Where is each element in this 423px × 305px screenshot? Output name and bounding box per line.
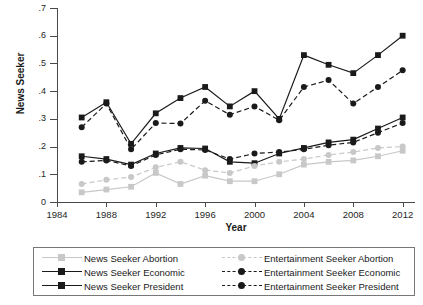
legend-label: News Seeker President xyxy=(84,281,183,292)
data-point xyxy=(202,147,208,153)
data-point xyxy=(178,181,184,187)
series-entertainment-seeker-president xyxy=(79,67,406,152)
series-news-seeker-abortion xyxy=(79,148,406,195)
data-point xyxy=(202,84,208,90)
legend-key-swatch xyxy=(220,265,264,279)
data-point xyxy=(375,126,381,132)
data-point xyxy=(276,149,282,155)
data-point xyxy=(178,145,184,151)
data-point xyxy=(128,163,134,169)
data-point xyxy=(350,139,356,145)
data-point xyxy=(153,151,159,157)
legend-item[interactable]: News Seeker Economic xyxy=(40,265,185,279)
x-tick-label: 2000 xyxy=(232,209,278,220)
data-point xyxy=(202,98,208,104)
y-tick-mark xyxy=(50,91,57,92)
y-tick-mark xyxy=(50,202,57,203)
legend-item[interactable]: News Seeker Abortion xyxy=(40,251,185,265)
data-point xyxy=(178,95,184,101)
data-point xyxy=(400,144,406,150)
data-point xyxy=(276,117,282,123)
data-point xyxy=(375,84,381,90)
data-point xyxy=(79,115,85,121)
y-axis-line xyxy=(57,8,58,202)
y-tick-mark xyxy=(50,36,57,37)
data-point xyxy=(79,124,85,130)
legend-item[interactable]: Entertainment Seeker Economic xyxy=(220,265,400,279)
data-point xyxy=(326,140,332,146)
x-tick-label: 1996 xyxy=(182,209,228,220)
data-point xyxy=(301,162,307,168)
data-point xyxy=(375,153,381,159)
data-point xyxy=(326,77,332,83)
data-point xyxy=(301,145,307,151)
data-point xyxy=(202,146,208,152)
legend-marker-square-icon xyxy=(58,282,65,289)
y-tick-mark xyxy=(50,8,57,9)
data-point xyxy=(79,189,85,195)
data-point xyxy=(153,152,159,158)
legend-item[interactable]: News Seeker President xyxy=(40,279,185,293)
x-tick-mark xyxy=(403,202,404,207)
y-tick-mark xyxy=(50,63,57,64)
data-point xyxy=(301,156,307,162)
data-point xyxy=(103,101,109,107)
data-point xyxy=(103,156,109,162)
data-point xyxy=(276,151,282,157)
data-point xyxy=(400,120,406,126)
data-point xyxy=(177,121,183,127)
legend-marker-circle-icon xyxy=(238,282,245,289)
data-point xyxy=(103,187,109,193)
y-tick-mark xyxy=(50,174,57,175)
y-tick-mark xyxy=(50,119,57,120)
legend-marker-circle-icon xyxy=(238,254,245,261)
data-point xyxy=(252,88,258,94)
data-point xyxy=(252,178,258,184)
data-point xyxy=(227,103,233,109)
data-point xyxy=(350,70,356,76)
y-tick-label: .7 xyxy=(0,4,46,13)
x-tick-mark xyxy=(255,202,256,207)
chart-container: 0.1.2.3.4.5.6.7 198419881992199620002004… xyxy=(0,0,423,305)
y-axis-title: News Seeker xyxy=(15,24,26,144)
legend-label: Entertainment Seeker Abortion xyxy=(264,253,393,264)
data-point xyxy=(375,52,381,58)
data-point xyxy=(79,181,85,187)
data-point xyxy=(202,173,208,179)
x-tick-mark xyxy=(156,202,157,207)
x-tick-label: 2012 xyxy=(380,209,423,220)
data-point xyxy=(375,130,381,136)
x-tick-mark xyxy=(304,202,305,207)
data-point xyxy=(252,151,258,157)
data-point xyxy=(301,146,307,152)
legend-key-swatch xyxy=(220,251,264,265)
legend-column-entertainment-seeker: Entertainment Seeker AbortionEntertainme… xyxy=(220,251,400,293)
legend-key-swatch xyxy=(40,251,84,265)
legend-label: News Seeker Abortion xyxy=(84,253,178,264)
data-point xyxy=(252,160,258,166)
x-tick-label: 1984 xyxy=(34,209,80,220)
x-tick-label: 1988 xyxy=(83,209,129,220)
data-point xyxy=(400,115,406,121)
legend-marker-square-icon xyxy=(58,268,65,275)
data-point xyxy=(227,156,233,162)
data-point xyxy=(326,142,332,148)
data-point xyxy=(400,33,406,39)
data-point xyxy=(350,101,356,107)
data-point xyxy=(177,159,183,165)
data-point xyxy=(153,120,159,126)
legend-item[interactable]: Entertainment Seeker President xyxy=(220,279,400,293)
legend-item[interactable]: Entertainment Seeker Abortion xyxy=(220,251,400,265)
data-point xyxy=(227,170,233,176)
legend-label: News Seeker Economic xyxy=(84,267,185,278)
series-entertainment-seeker-economic xyxy=(79,120,406,169)
legend-label: Entertainment Seeker President xyxy=(264,281,399,292)
data-point xyxy=(326,159,332,165)
data-point xyxy=(301,52,307,58)
data-point xyxy=(153,164,159,170)
data-point xyxy=(227,112,233,118)
legend-column-news-seeker: News Seeker AbortionNews Seeker Economic… xyxy=(40,251,185,293)
series-news-seeker-president xyxy=(79,33,406,147)
data-point xyxy=(128,184,134,190)
x-tick-mark xyxy=(353,202,354,207)
